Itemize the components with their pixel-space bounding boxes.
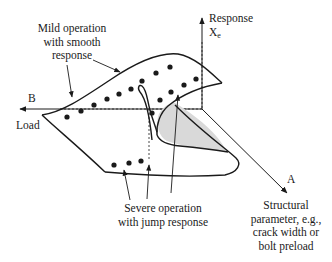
structural-axis xyxy=(202,109,287,193)
mild-line-1: Mild operation xyxy=(32,22,112,36)
severe-operation-label: Severe operation with jump response xyxy=(108,202,218,229)
structural-line-3: crack width or xyxy=(246,226,326,240)
surface-outline xyxy=(42,54,239,176)
load-axis-label: Load xyxy=(16,119,40,133)
smooth-path-dots xyxy=(64,64,172,119)
severe-line-1: Severe operation xyxy=(108,202,218,216)
mild-line-3: response xyxy=(32,49,112,63)
structural-line-2: parameter, e.g., xyxy=(246,213,326,227)
structural-axis-letter: A xyxy=(287,173,295,187)
severe-arrow-2 xyxy=(147,165,149,199)
mild-line-2: with smooth xyxy=(32,36,112,50)
structural-line-4: bolt preload xyxy=(246,240,326,254)
response-symbol: Xe xyxy=(209,26,253,43)
response-axis-label: Response Xe xyxy=(209,12,253,42)
mild-arrow-1 xyxy=(67,65,72,97)
jump-path-dots xyxy=(111,158,143,167)
structural-parameter-label: Structural parameter, e.g., crack width … xyxy=(246,199,326,253)
response-subscript: e xyxy=(217,31,221,40)
severe-line-2: with jump response xyxy=(108,216,218,230)
structural-line-1: Structural xyxy=(246,199,326,213)
load-axis-letter: B xyxy=(28,92,36,106)
response-label: Response xyxy=(209,12,253,26)
mild-operation-label: Mild operation with smooth response xyxy=(32,22,112,63)
